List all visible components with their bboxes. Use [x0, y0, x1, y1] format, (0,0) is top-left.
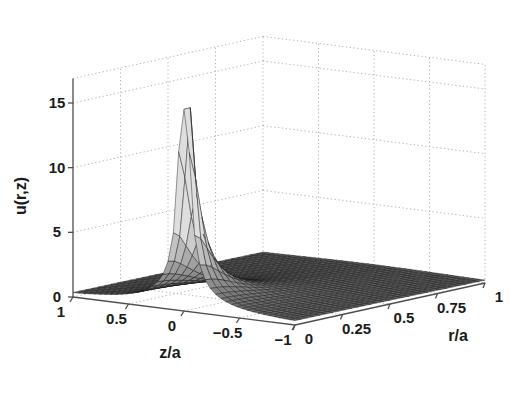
x-tick-1	[126, 304, 129, 309]
y-tick-label-2: 0.5	[394, 309, 415, 326]
x-tick-label-1: 0.5	[106, 310, 127, 327]
x-tick-label-3: −0.5	[213, 324, 243, 341]
y-tick-label-4: 1	[495, 288, 503, 305]
x-tick-label-2: 0	[168, 317, 176, 334]
back-wall-left	[73, 36, 263, 297]
x-axis-title: z/a	[159, 344, 180, 361]
surface-plot-canvas: 151050u(r,z)10.50−0.5−1z/a00.250.50.751r…	[0, 0, 528, 394]
y-tick-0	[293, 325, 295, 330]
z-axis-title: u(r,z)	[12, 177, 29, 215]
x-tick-2	[181, 311, 184, 316]
y-tick-label-1: 0.25	[342, 320, 371, 337]
z-tick-label-2: 5	[53, 223, 61, 240]
surface-plot-figure: 151050u(r,z)10.50−0.5−1z/a00.250.50.751r…	[0, 0, 528, 394]
y-tick-label-0: 0	[305, 330, 313, 347]
y-tick-label-3: 0.75	[437, 299, 466, 316]
y-axis-title: r/a	[448, 327, 468, 344]
x-tick-label-4: −1	[274, 331, 291, 348]
z-tick-label-1: 10	[49, 159, 66, 176]
z-tick-label-0: 15	[49, 94, 66, 111]
x-tick-3	[237, 318, 240, 323]
x-tick-label-0: 1	[57, 303, 65, 320]
x-tick-0	[70, 297, 73, 302]
